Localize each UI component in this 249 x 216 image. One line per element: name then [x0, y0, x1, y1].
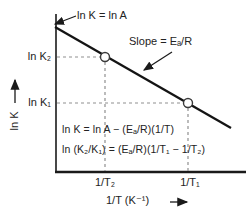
equation-2: ln (K₂/K₁) = (Eₐ/R)(1/T₁ − 1/T₂) [62, 143, 205, 156]
data-point-T1 [184, 99, 193, 108]
x-tick-label-1overT2: 1/T₂ [88, 176, 122, 189]
x-tick-label-1overT1: 1/T₁ [173, 176, 207, 189]
data-point-T2 [101, 53, 110, 62]
slope-arrow-icon [144, 52, 172, 70]
arrhenius-plot-figure: ln K = ln A Slope = Eₐ/R ln K₂ ln K₁ ln … [0, 0, 249, 216]
slope-annotation: Slope = Eₐ/R [129, 35, 192, 48]
y-tick-label-lnK1: ln K₁ [17, 96, 51, 109]
intercept-annotation: ln K = ln A [77, 9, 127, 22]
y-axis-label: ln K [8, 101, 22, 141]
intercept-arrow-icon [55, 16, 76, 24]
x-axis-label: 1/T (K⁻¹) [106, 194, 149, 207]
equation-1: ln K = ln A − (Eₐ/R)(1/T) [62, 123, 174, 136]
y-tick-label-lnK2: ln K₂ [17, 50, 51, 63]
